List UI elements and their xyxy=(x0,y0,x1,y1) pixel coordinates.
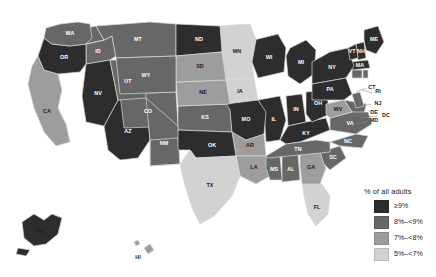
state-label-la: LA xyxy=(250,164,257,170)
state-hi xyxy=(134,240,154,254)
state-label-nj: NJ xyxy=(375,100,382,106)
leader-line-ct xyxy=(356,88,366,92)
state-label-de: DE xyxy=(370,109,378,115)
state-label-wv: WV xyxy=(334,106,343,112)
state-label-ri: RI xyxy=(375,88,381,94)
state-label-nd: ND xyxy=(195,36,203,42)
state-ct xyxy=(352,70,362,78)
legend-label: 7%–<8% xyxy=(394,234,423,242)
state-label-ga: GA xyxy=(307,164,315,170)
state-label-mt: MT xyxy=(134,36,143,42)
state-label-il: IL xyxy=(272,116,278,122)
map-legend: % of all adults ≥9%8%–<9%7%–<8%5%–<7% xyxy=(363,187,435,264)
state-label-mi: MI xyxy=(298,59,305,65)
legend-swatch xyxy=(374,232,389,245)
legend-items-list: ≥9%8%–<9%7%–<8%5%–<7% xyxy=(363,200,435,260)
legend-title: % of all adults xyxy=(364,187,435,196)
state-label-nh: NH xyxy=(357,48,365,54)
state-label-nm: NM xyxy=(160,140,169,146)
state-label-fl: FL xyxy=(314,204,321,210)
state-label-ok: OK xyxy=(208,142,216,148)
legend-swatch xyxy=(374,248,389,261)
state-label-pa: PA xyxy=(326,86,333,92)
state-label-sc: SC xyxy=(329,154,337,160)
state-label-ca: CA xyxy=(43,108,51,114)
state-label-va: VA xyxy=(346,120,353,126)
state-label-in: IN xyxy=(293,106,299,112)
choropleth-map-figure: ALAKAZARCACOCTDEDCFLGAHIIDILINIAKSKYLAME… xyxy=(0,0,436,277)
state-label-tn: TN xyxy=(294,146,301,152)
legend-label: 8%–<9% xyxy=(394,218,423,226)
legend-swatch xyxy=(374,200,389,213)
state-ak xyxy=(16,214,62,256)
states-layer xyxy=(16,22,384,256)
state-label-ne: NE xyxy=(199,89,207,95)
legend-label: ≥9% xyxy=(394,202,408,210)
state-label-ut: UT xyxy=(124,78,132,84)
state-label-mo: MO xyxy=(242,116,251,122)
state-label-nc: NC xyxy=(344,138,352,144)
legend-item: 7%–<8% xyxy=(363,232,435,244)
state-label-az: AZ xyxy=(124,128,132,134)
legend-item: 5%–<7% xyxy=(363,248,435,260)
state-label-ky: KY xyxy=(302,130,310,136)
state-label-wy: WY xyxy=(142,72,151,78)
state-label-vt: VT xyxy=(349,48,357,54)
state-label-wa: WA xyxy=(66,30,75,36)
legend-label: 5%–<7% xyxy=(394,250,423,258)
legend-swatch xyxy=(374,216,389,229)
state-label-mn: MN xyxy=(233,48,242,54)
state-label-ak: AK xyxy=(36,228,44,234)
state-label-al: AL xyxy=(287,166,295,172)
state-label-md: MD xyxy=(370,117,379,123)
legend-item: ≥9% xyxy=(363,200,435,212)
state-label-me: ME xyxy=(370,36,379,42)
state-label-hi: HI xyxy=(135,254,141,260)
state-label-ms: MS xyxy=(270,166,279,172)
state-label-co: CO xyxy=(144,108,152,114)
state-label-oh: OH xyxy=(314,100,322,106)
state-label-wi: WI xyxy=(266,54,273,60)
state-label-tx: TX xyxy=(207,182,214,188)
state-label-ma: MA xyxy=(356,62,365,68)
state-label-nv: NV xyxy=(94,90,102,96)
state-label-sd: SD xyxy=(196,63,204,69)
state-label-or: OR xyxy=(60,54,68,60)
state-label-id: ID xyxy=(95,48,101,54)
state-ri xyxy=(363,70,368,78)
state-label-ny: NY xyxy=(328,64,336,70)
state-label-ks: KS xyxy=(201,114,209,120)
leader-line-ri xyxy=(362,90,372,93)
state-label-ia: IA xyxy=(237,88,243,94)
state-label-dc: DC xyxy=(382,112,390,118)
legend-item: 8%–<9% xyxy=(363,216,435,228)
state-label-ar: AR xyxy=(246,142,254,148)
